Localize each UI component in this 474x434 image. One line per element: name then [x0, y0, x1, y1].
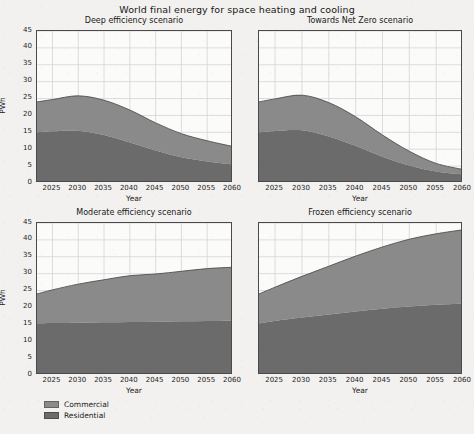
y-tick-label: 0 [12, 178, 32, 186]
legend-item-commercial[interactable]: Commercial [44, 399, 109, 409]
legend-label-residential: Residential [64, 411, 105, 420]
figure: World final energy for space heating and… [0, 0, 474, 434]
y-tick-label: 20 [12, 302, 32, 310]
x-tick-label: 2050 [394, 184, 422, 192]
y-tick-label: 45 [12, 26, 32, 34]
panel-title-deep-efficiency-scenario: Deep efficiency scenario [36, 16, 232, 25]
y-tick-label: 5 [12, 161, 32, 169]
y-tick-label: 35 [12, 251, 32, 259]
plot-area-moderate-efficiency-scenario [36, 222, 232, 374]
x-tick-label: 2030 [287, 376, 315, 384]
y-tick-label: 15 [12, 127, 32, 135]
x-tick-label: 2025 [37, 184, 65, 192]
plot-area-frozen-efficiency-scenario [258, 222, 462, 374]
plot-area-deep-efficiency-scenario [36, 30, 232, 182]
x-axis-label: Year [258, 194, 462, 203]
panel-title-moderate-efficiency-scenario: Moderate efficiency scenario [36, 208, 232, 217]
y-tick-label: 25 [12, 285, 32, 293]
x-tick-label: 2055 [421, 184, 449, 192]
x-tick-label: 2050 [166, 376, 194, 384]
y-tick-label: 10 [12, 144, 32, 152]
y-tick-label: 20 [12, 110, 32, 118]
y-tick-label: 0 [12, 370, 32, 378]
y-tick-label: 5 [12, 353, 32, 361]
panel-title-frozen-efficiency-scenario: Frozen efficiency scenario [258, 208, 462, 217]
x-tick-label: 2040 [341, 184, 369, 192]
x-tick-label: 2045 [367, 184, 395, 192]
y-tick-label: 40 [12, 42, 32, 50]
y-axis-label: PWh [0, 86, 7, 126]
panel-towards-net-zero-scenario: Towards Net Zero scenario202520302035204… [258, 16, 462, 202]
plot-area-towards-net-zero-scenario [258, 30, 462, 182]
x-tick-label: 2050 [166, 184, 194, 192]
area-residential [37, 321, 232, 374]
x-tick-label: 2025 [37, 376, 65, 384]
y-tick-label: 25 [12, 93, 32, 101]
y-tick-label: 30 [12, 76, 32, 84]
x-tick-label: 2035 [314, 184, 342, 192]
y-tick-label: 10 [12, 336, 32, 344]
x-tick-label: 2060 [448, 184, 474, 192]
y-tick-label: 35 [12, 59, 32, 67]
x-tick-label: 2060 [218, 184, 246, 192]
x-axis-label: Year [258, 386, 462, 395]
y-tick-label: 15 [12, 319, 32, 327]
x-tick-label: 2035 [89, 184, 117, 192]
x-tick-label: 2045 [367, 376, 395, 384]
figure-title: World final energy for space heating and… [0, 4, 474, 15]
x-tick-label: 2060 [218, 376, 246, 384]
x-tick-label: 2035 [314, 376, 342, 384]
x-tick-label: 2030 [63, 376, 91, 384]
legend-item-residential[interactable]: Residential [44, 410, 109, 420]
x-tick-label: 2045 [141, 376, 169, 384]
x-tick-label: 2035 [89, 376, 117, 384]
legend-swatch-residential [44, 412, 59, 419]
legend-label-commercial: Commercial [64, 400, 109, 409]
panel-title-towards-net-zero-scenario: Towards Net Zero scenario [258, 16, 462, 25]
panel-deep-efficiency-scenario: Deep efficiency scenario0510152025303540… [36, 16, 232, 202]
x-tick-label: 2025 [260, 184, 288, 192]
x-tick-label: 2040 [341, 376, 369, 384]
chart-legend: CommercialResidential [44, 399, 109, 421]
x-tick-label: 2045 [141, 184, 169, 192]
x-tick-label: 2060 [448, 376, 474, 384]
x-axis-label: Year [36, 386, 232, 395]
x-axis-label: Year [36, 194, 232, 203]
y-tick-label: 30 [12, 268, 32, 276]
x-tick-label: 2030 [63, 184, 91, 192]
x-tick-label: 2025 [260, 376, 288, 384]
legend-swatch-commercial [44, 401, 59, 408]
panel-moderate-efficiency-scenario: Moderate efficiency scenario051015202530… [36, 208, 232, 394]
x-tick-label: 2055 [421, 376, 449, 384]
x-tick-label: 2040 [115, 376, 143, 384]
x-tick-label: 2030 [287, 184, 315, 192]
x-tick-label: 2040 [115, 184, 143, 192]
x-tick-label: 2055 [192, 184, 220, 192]
x-tick-label: 2050 [394, 376, 422, 384]
panel-frozen-efficiency-scenario: Frozen efficiency scenario20252030203520… [258, 208, 462, 394]
y-axis-label: PWh [0, 278, 7, 318]
x-tick-label: 2055 [192, 376, 220, 384]
y-tick-label: 45 [12, 218, 32, 226]
y-tick-label: 40 [12, 234, 32, 242]
